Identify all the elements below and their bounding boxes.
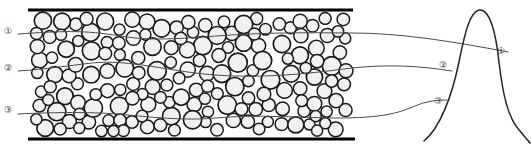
grain-circle [101,84,115,98]
grain-circle [173,89,189,105]
right-label-2: ② [439,61,447,70]
grain-circle [277,83,293,99]
grain-circle [132,51,145,64]
grain-circle [292,47,309,64]
grain-circle [273,35,290,52]
grain-circle [235,103,248,116]
grain-circle [319,12,331,24]
grain-circle [148,62,167,81]
grain-circle [80,12,93,25]
grain-circle [115,84,126,95]
schematic-vector-layer [0,0,531,148]
grain-circle [30,39,44,53]
grain-circle [332,26,343,37]
grain-circle [218,16,230,28]
grain-circle [54,123,66,135]
grain-circle [213,65,231,83]
grain-circle [253,51,271,69]
grain-circle [114,49,125,60]
grain-circle [338,78,351,91]
grain-circle [202,106,213,117]
grain-circle [310,54,323,67]
grain-circle [103,115,114,126]
grain-circle [212,49,226,63]
peak-curve [424,10,530,143]
grain-circle [108,126,119,137]
grain-circle [90,89,102,101]
grain-circle [199,93,210,104]
grain-circle [293,14,307,28]
grain-circle [96,125,107,136]
grain-circle [101,36,113,48]
grain-circle [193,54,205,66]
grain-circle [339,104,352,117]
grain-circle [55,29,66,40]
grain-circle [169,124,181,136]
grain-circle [339,64,353,78]
grain-circle [83,66,100,83]
grain-circle [306,19,319,32]
grain-circle [154,119,167,132]
grain-circle [211,124,223,136]
grain-circle [46,52,57,63]
grain-circle [31,114,42,125]
grain-circle [43,94,54,105]
grain-circle [71,95,86,110]
grain-circle [54,13,71,30]
grain-circle [183,111,201,129]
grain-circle [293,82,306,95]
left-label-1: ① [4,27,12,36]
grain-circle [275,118,288,131]
left-label-3: ③ [4,106,12,115]
grain-circle [161,79,173,91]
grain-circle [276,102,290,116]
grain-circle [97,13,114,30]
grain-circle [321,106,332,117]
grain-circle [126,91,139,104]
grain-circle [282,53,293,64]
grain-circle [288,117,304,133]
grain-circle [307,96,322,111]
right-label-3: ③ [434,97,442,106]
grain-circle [73,35,84,46]
grain-circle [132,67,145,80]
grain-circle [312,125,323,136]
grain-circle [325,75,337,87]
grain-circle [202,80,214,92]
grain-circle [273,18,285,30]
grain-circle [74,123,85,134]
grain-circle [99,47,112,60]
grain-circle [257,87,271,101]
grain-circle [84,99,102,117]
left-label-2: ② [4,64,12,73]
grain-circle [58,41,74,57]
grain-circle [100,64,115,79]
grain-circle [294,29,308,43]
grain-circle [337,13,350,26]
right-label-1: ① [497,47,505,56]
figure-canvas: ① ② ③ ① ② ③ [0,0,531,148]
grain-circle [165,57,176,68]
grain-circle [139,14,155,30]
grain-circle [310,111,321,122]
grain-circle [125,12,140,27]
grain-circle [309,40,325,56]
grain-circle [242,92,254,104]
grain-circle [113,37,126,50]
grain-circle [44,81,56,93]
grain-circle [253,123,265,135]
grain-circle [155,92,167,104]
grain-circle [322,57,341,76]
grain-circle [74,108,85,119]
grain-circle [228,53,247,72]
grain-circle [32,52,48,68]
grain-circle [243,75,254,86]
grain-circle [173,72,185,84]
grain-circle [82,42,100,60]
grain-packing-group [30,12,353,137]
grain-circle [114,24,125,35]
grain-circle [296,95,308,107]
grain-circle [116,59,134,77]
grain-circle [300,62,311,73]
grain-circle [34,12,51,29]
